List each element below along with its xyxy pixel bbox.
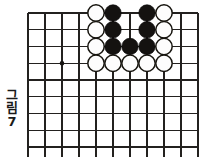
white-stone [122, 55, 138, 71]
black-stone [139, 22, 155, 38]
black-stone [105, 22, 121, 38]
figure-caption-char-1: 그 [2, 88, 22, 101]
white-stone [156, 38, 172, 54]
black-stone [105, 5, 121, 21]
white-stone [156, 22, 172, 38]
figure-caption-char-2: 림 [2, 101, 22, 114]
black-stone [105, 38, 121, 54]
figure-caption-number: 7 [2, 115, 22, 128]
white-stone [105, 55, 121, 71]
black-stone [139, 38, 155, 54]
black-stone [122, 38, 138, 54]
white-stone [139, 55, 155, 71]
go-board-canvas [0, 0, 211, 164]
white-stone [156, 5, 172, 21]
board-star-points [60, 61, 65, 66]
white-stone [88, 5, 104, 21]
white-stone [88, 22, 104, 38]
figure-screenshot: 그 림 7 [0, 0, 211, 164]
black-stone [139, 5, 155, 21]
star-point [60, 61, 65, 66]
white-stone [156, 55, 172, 71]
white-stone [88, 38, 104, 54]
go-board [0, 0, 211, 164]
figure-caption: 그 림 7 [2, 88, 22, 128]
white-stone [88, 55, 104, 71]
